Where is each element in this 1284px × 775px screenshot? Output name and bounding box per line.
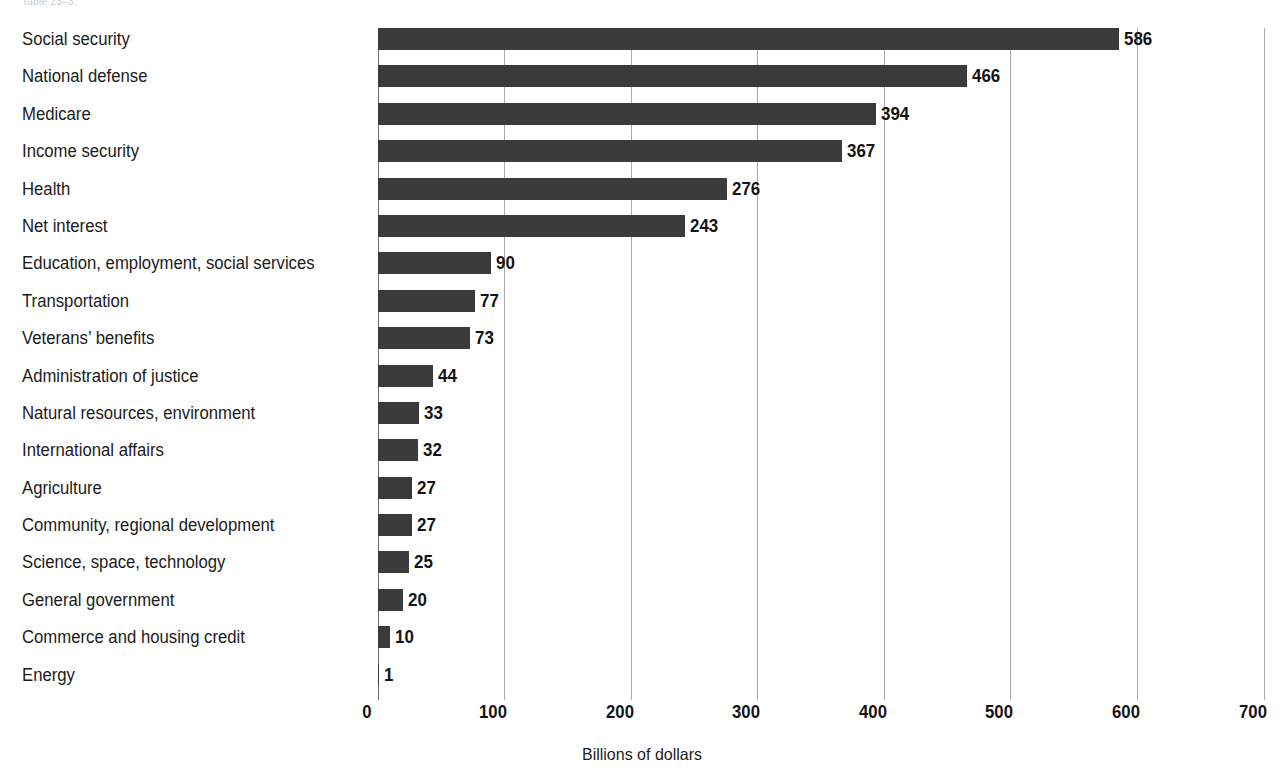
category-label: Transportation (22, 290, 354, 312)
category-label: Community, regional development (22, 514, 354, 536)
bar-value-label: 73 (475, 327, 494, 349)
bar-rows-group: Social security586National defense466Med… (0, 28, 1284, 701)
bar-value-label: 243 (690, 215, 718, 237)
chart-page: Table 23–3. Social security586National d… (0, 0, 1284, 775)
x-tick-label-700: 700 (1239, 702, 1267, 723)
category-label: Agriculture (22, 477, 354, 499)
bar (378, 626, 391, 648)
x-tick-label-400: 400 (859, 702, 887, 723)
bar-row: National defense466 (0, 65, 1284, 102)
bar (378, 551, 410, 573)
category-label: Veterans’ benefits (22, 327, 354, 349)
bar-row: Energy1 (0, 664, 1284, 701)
bar-row: Commerce and housing credit10 (0, 626, 1284, 663)
bar (378, 215, 686, 237)
x-axis-title: Billions of dollars (19, 745, 1264, 764)
category-label: Energy (22, 664, 354, 686)
bar-value-label: 32 (423, 439, 442, 461)
bar-row: International affairs32 (0, 439, 1284, 476)
bar-value-label: 586 (1124, 28, 1152, 50)
bar-value-label: 44 (438, 365, 457, 387)
bar (378, 28, 1120, 50)
bar (378, 327, 470, 349)
bar (378, 178, 727, 200)
category-label: National defense (22, 65, 354, 87)
x-tick-label-0: 0 (362, 702, 371, 723)
bar (378, 402, 420, 424)
category-label: Health (22, 178, 354, 200)
bar-row: Agriculture27 (0, 477, 1284, 514)
bar-row: Social security586 (0, 28, 1284, 65)
bar-row: Health276 (0, 178, 1284, 215)
bar-value-label: 25 (414, 551, 433, 573)
bar-value-label: 10 (395, 626, 414, 648)
bar-row: General government20 (0, 589, 1284, 626)
category-label: Commerce and housing credit (22, 626, 354, 648)
category-label: Medicare (22, 103, 354, 125)
bar-row: Veterans’ benefits73 (0, 327, 1284, 364)
bar-row: Income security367 (0, 140, 1284, 177)
x-tick-label-600: 600 (1112, 702, 1140, 723)
bar (378, 664, 379, 686)
bar (378, 439, 419, 461)
bar-row: Transportation77 (0, 290, 1284, 327)
bar (378, 290, 475, 312)
category-label: Science, space, technology (22, 551, 354, 573)
bar-row: Administration of justice44 (0, 365, 1284, 402)
category-label: Net interest (22, 215, 354, 237)
bar (378, 252, 492, 274)
bar-row: Medicare394 (0, 103, 1284, 140)
bar-value-label: 20 (408, 589, 427, 611)
category-label: Social security (22, 28, 354, 50)
bar-row: Natural resources, environment33 (0, 402, 1284, 439)
category-label: Administration of justice (22, 365, 354, 387)
bar-row: Education, employment, social services90 (0, 252, 1284, 289)
bar-value-label: 276 (732, 178, 760, 200)
bar-value-label: 90 (496, 252, 515, 274)
bar-row: Community, regional development27 (0, 514, 1284, 551)
category-label: International affairs (22, 439, 354, 461)
category-label: General government (22, 589, 354, 611)
bar (378, 589, 403, 611)
bar (378, 140, 843, 162)
x-tick-label-500: 500 (985, 702, 1013, 723)
bar-value-label: 33 (424, 402, 443, 424)
bar-value-label: 27 (417, 477, 436, 499)
bar-value-label: 27 (417, 514, 436, 536)
category-label: Natural resources, environment (22, 402, 354, 424)
bar (378, 103, 877, 125)
bar-value-label: 1 (384, 664, 393, 686)
bar (378, 65, 968, 87)
bar-value-label: 394 (881, 103, 909, 125)
bar (378, 365, 434, 387)
bar-value-label: 466 (972, 65, 1000, 87)
x-tick-label-300: 300 (732, 702, 760, 723)
bar-chart-plot-area: Social security586National defense466Med… (0, 0, 1284, 775)
bar-value-label: 77 (480, 290, 499, 312)
x-tick-label-200: 200 (606, 702, 634, 723)
bar (378, 514, 412, 536)
bar-value-label: 367 (847, 140, 875, 162)
category-label: Education, employment, social services (22, 252, 354, 274)
category-label: Income security (22, 140, 354, 162)
bar-row: Net interest243 (0, 215, 1284, 252)
bar (378, 477, 412, 499)
bar-row: Science, space, technology25 (0, 551, 1284, 588)
x-tick-label-100: 100 (479, 702, 507, 723)
